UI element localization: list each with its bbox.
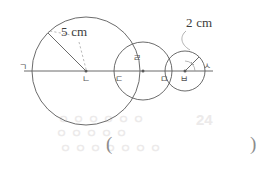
point-label-bieup: ㅂ	[180, 75, 188, 84]
point-label-siot: ㅅ	[203, 62, 211, 71]
point-label-mieum: ㅁ	[160, 75, 168, 84]
measure-label-two-cm: 2 cm	[186, 16, 212, 29]
point-dot-nieun	[85, 70, 88, 73]
point-dot-rieul	[142, 70, 145, 73]
geometry-figure: 24 ㅇㅇㅇㅇㅇㅇ ㅇㅇㅇㅇㅇ ㅇㅇㅇㅇㅇㅇㅇ ㄱ ㄴ ㄷ ㄹ ㅁ ㅂ ㅅ	[0, 0, 269, 169]
two-cm-leader	[182, 31, 190, 50]
figure-canvas	[0, 0, 269, 169]
measure-label-five-cm: 5 cm	[61, 25, 87, 38]
answer-blank-open-paren: (	[106, 134, 112, 153]
point-label-giyeok: ㄱ	[19, 63, 27, 72]
point-label-rieul: ㄹ	[133, 54, 141, 63]
answer-blank-close-paren: )	[250, 134, 256, 153]
point-label-nieun: ㄴ	[82, 75, 90, 84]
point-dot-bieup	[184, 70, 187, 73]
point-label-digeut: ㄷ	[115, 75, 123, 84]
